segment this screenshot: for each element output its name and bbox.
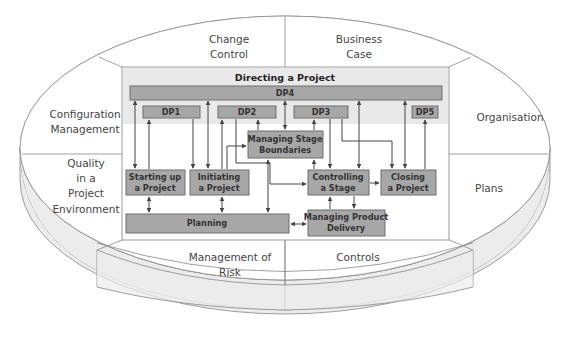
svg-text:DP1: DP1 — [162, 107, 181, 117]
prince2-process-model: ChangeControl BusinessCase Configuration… — [0, 0, 570, 339]
dp3-box: DP3 — [294, 106, 348, 118]
managing-product-delivery-box: Managing ProductDelivery — [304, 210, 388, 236]
svg-text:DP4: DP4 — [276, 88, 295, 98]
svg-text:Initiatinga Project: Initiatinga Project — [198, 172, 240, 193]
svg-text:DP2: DP2 — [238, 107, 257, 117]
planning-box: Planning — [126, 214, 289, 233]
dp4-bar: DP4 — [130, 86, 442, 100]
closing-a-project-box: Closinga Project — [381, 170, 436, 195]
controlling-a-stage-box: Controllinga Stage — [308, 170, 369, 195]
dp1-box: DP1 — [143, 106, 200, 118]
svg-text:DP5: DP5 — [416, 107, 435, 117]
segment-plans: Plans — [475, 182, 503, 194]
managing-stage-boundaries-box: Managing StageBoundaries — [248, 131, 323, 158]
dp5-box: DP5 — [412, 106, 438, 118]
svg-text:Closinga Project: Closinga Project — [387, 172, 428, 193]
directing-a-project-title: Directing a Project — [235, 72, 336, 83]
svg-text:Planning: Planning — [187, 218, 228, 228]
initiating-a-project-box: Initiatinga Project — [190, 170, 249, 195]
dp2-box: DP2 — [218, 106, 276, 118]
svg-text:DP3: DP3 — [312, 107, 331, 117]
svg-text:Starting upa Project: Starting upa Project — [129, 172, 181, 193]
segment-controls: Controls — [336, 251, 379, 263]
segment-organisation: Organisation — [476, 111, 543, 123]
starting-up-a-project-box: Starting upa Project — [126, 170, 185, 195]
